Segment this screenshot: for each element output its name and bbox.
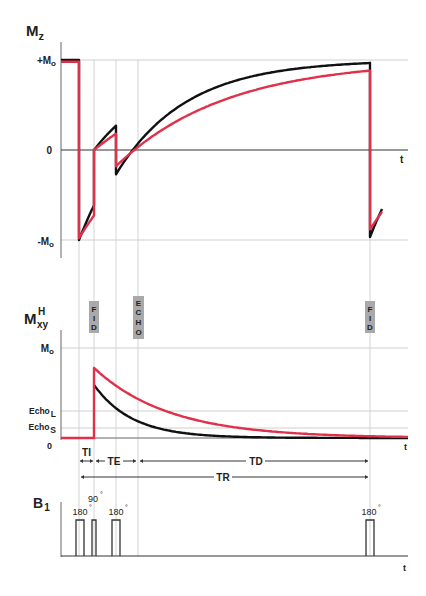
- b1-xlabel: t: [403, 563, 406, 573]
- mz-tick-minus-mo: -Mo: [37, 236, 54, 249]
- mxy-xlabel: t: [404, 442, 407, 452]
- b1-panel: B1 t 180 ° 90 ° 180 ° 180 °: [33, 491, 408, 573]
- echo-tag-letter-c: C: [136, 308, 142, 317]
- svg-text:°: °: [100, 491, 103, 498]
- pulse-refocus: 180 °: [108, 504, 128, 556]
- mxy-curve-long: [61, 368, 408, 438]
- svg-text:°: °: [378, 504, 381, 511]
- pulse-excitation-label: 90: [88, 494, 98, 504]
- svg-text:°: °: [89, 504, 92, 511]
- timing-intervals: TI TE TD TR: [80, 447, 368, 483]
- mxy-tick-mo: Mo: [41, 343, 54, 356]
- pulse-inversion-label: 180: [72, 507, 87, 517]
- mxy-tick-echo-s: EchoS: [29, 422, 57, 435]
- mxy-tick-zero: 0: [47, 441, 52, 451]
- ti-label: TI: [82, 447, 91, 458]
- fid-tag-2-letter-f: F: [368, 305, 373, 314]
- mxy-panel: M H xy Mo EchoL EchoS 0 t: [24, 306, 408, 452]
- echo-tag: E C H O: [133, 296, 144, 339]
- mz-tick-plus-mo: +Mo: [37, 55, 56, 68]
- signal-tags: F I D E C H O F I D: [89, 296, 375, 339]
- b1-ylabel: B1: [33, 495, 50, 513]
- fid-tag-1: F I D: [89, 301, 99, 333]
- svg-text:°: °: [125, 504, 128, 511]
- echo-tag-letter-o: O: [135, 328, 141, 337]
- mz-xlabel: t: [400, 154, 404, 165]
- pulse-excitation: 90 °: [88, 491, 103, 556]
- mz-panel: Mz +Mo 0 -Mo t: [26, 22, 408, 258]
- mri-timing-diagram: Mz +Mo 0 -Mo t F I D E C H O: [0, 0, 426, 596]
- echo-tag-letter-h: H: [136, 318, 142, 327]
- ti-arrow: [80, 459, 93, 463]
- mz-ylabel: Mz: [26, 22, 45, 42]
- fid-tag-1-letter-d: D: [91, 323, 97, 332]
- fid-tag-2-letter-i: I: [369, 314, 371, 323]
- fid-tag-2-letter-d: D: [367, 323, 373, 332]
- pulse-refocus-label: 180: [108, 507, 123, 517]
- echo-tag-letter-e: E: [136, 299, 142, 308]
- fid-tag-1-letter-f: F: [92, 305, 97, 314]
- mxy-ylabel-sup: H: [38, 306, 45, 317]
- pulse-next-inversion: 180 °: [361, 504, 381, 556]
- td-label: TD: [249, 456, 262, 467]
- mxy-ylabel: M: [24, 310, 37, 327]
- fid-tag-1-letter-i: I: [93, 314, 95, 323]
- pulse-next-inversion-label: 180: [361, 507, 376, 517]
- fid-tag-2: F I D: [365, 301, 375, 333]
- mxy-tick-echo-l: EchoL: [29, 406, 56, 419]
- pulse-inversion: 180 °: [72, 504, 92, 556]
- mz-tick-zero: 0: [46, 145, 52, 156]
- te-label: TE: [108, 456, 121, 467]
- mxy-ylabel-sub: xy: [37, 319, 49, 330]
- tr-label: TR: [216, 472, 230, 483]
